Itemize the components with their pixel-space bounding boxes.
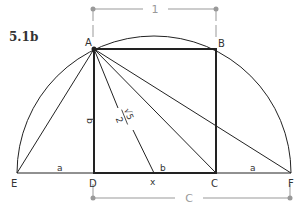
bottom-dimension-right-dot <box>288 196 293 201</box>
line-Ax-lower <box>133 130 154 173</box>
line-AC <box>94 49 216 173</box>
point-x-label: x <box>150 177 156 187</box>
point-C-label: C <box>211 178 218 189</box>
point-A-label: A <box>85 37 92 48</box>
line-Ax-upper <box>94 49 118 108</box>
segment-ED-label: a <box>57 163 63 173</box>
bottom-dimension-left-dot <box>91 196 96 201</box>
top-dimension-left-dot <box>91 7 96 12</box>
segment-CF-label: a <box>250 163 256 173</box>
bottom-dimension-label: C <box>185 192 193 205</box>
point-F-label: F <box>288 178 294 189</box>
top-dimension-right-dot <box>214 7 219 12</box>
semicircle-arc <box>17 36 291 173</box>
segment-Ax-label: √5 2 <box>111 106 136 129</box>
point-D-label: D <box>89 178 97 189</box>
segment-xC-label: b <box>160 163 166 173</box>
line-AE <box>17 49 94 173</box>
point-E-label: E <box>11 178 17 189</box>
segment-Ax-denominator: 2 <box>114 116 125 125</box>
golden-ratio-diagram: 1 C A B C D E F x a a b b √5 2 <box>0 0 301 207</box>
point-A-dot <box>92 47 97 52</box>
segment-AD-label: b <box>85 118 95 124</box>
point-B-label: B <box>218 38 225 49</box>
top-dimension-label: 1 <box>152 3 159 16</box>
